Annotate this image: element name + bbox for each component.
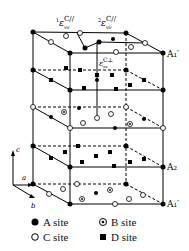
svg-text:vv: vv (106, 24, 112, 30)
filled-circle-icon (30, 217, 40, 227)
label-a1-prime-top: A₁′ (166, 49, 179, 59)
axis-c-label: c (16, 146, 20, 154)
label-a1-prime-bottom: A₁′ (166, 199, 179, 209)
epsilon-label-1: 1 ε C// vv (56, 15, 75, 30)
filled-square-icon (98, 232, 108, 242)
axis-b-label: b (31, 202, 36, 210)
svg-text:C//: C// (64, 15, 75, 23)
svg-text:vv: vv (64, 24, 70, 30)
axis-a-label: a (22, 174, 26, 182)
legend-a-site: A site (30, 216, 98, 228)
svg-text:vv: vv (103, 64, 108, 69)
legend: A site B site C site D site (30, 214, 170, 244)
legend-c-site: C site (30, 231, 98, 243)
dotted-circle-icon (98, 217, 108, 227)
epsilon-perp-label: ε C⊥ vv (99, 56, 113, 69)
legend-b-site: B site (98, 216, 166, 228)
svg-text:C//: C// (106, 15, 117, 23)
open-circle-icon (30, 232, 40, 242)
legend-d-site: D site (98, 231, 166, 243)
label-a2: A₂ (166, 162, 177, 172)
svg-text:C⊥: C⊥ (103, 56, 113, 63)
epsilon-label-2: 2 ε C// vv (98, 15, 117, 30)
